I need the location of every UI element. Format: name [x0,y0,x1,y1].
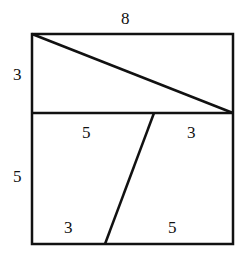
dissection-figure [0,0,246,265]
top-width-label: 8 [121,10,130,27]
top-height-label: 3 [13,66,22,83]
square-slanted-cut [105,113,154,244]
top-right-segment-label: 3 [187,124,196,141]
bottom-right-segment-label: 5 [168,219,177,236]
rectangle-diagonal [32,34,233,113]
top-left-segment-label: 5 [82,124,91,141]
bottom-left-segment-label: 3 [64,219,73,236]
outer-frame [32,34,233,244]
square-height-label: 5 [13,168,22,185]
